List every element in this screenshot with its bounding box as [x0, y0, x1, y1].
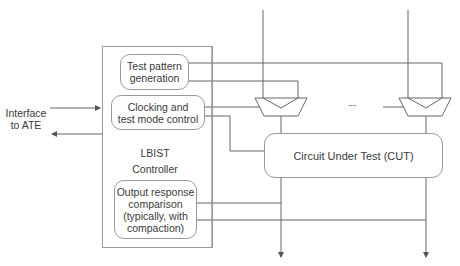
mux-1 — [255, 98, 307, 116]
interface-label-line1: Interface — [0, 107, 52, 119]
ora-line4: compaction) — [117, 222, 195, 234]
cut-label: Circuit Under Test (CUT) — [293, 150, 413, 162]
circuit-under-test-block: Circuit Under Test (CUT) — [264, 133, 443, 178]
controller-title-line2: Controller — [120, 161, 190, 177]
clocking-line2: test mode control — [118, 113, 199, 125]
tpg-line2: generation — [127, 72, 182, 84]
clocking-test-mode-block: Clocking and test mode control — [111, 95, 205, 130]
controller-title-line1: LBIST — [120, 145, 190, 161]
mux-2 — [399, 98, 451, 116]
interface-label-line2: to ATE — [0, 119, 52, 131]
tpg-line1: Test pattern — [127, 60, 182, 72]
test-pattern-generation-block: Test pattern generation — [120, 54, 189, 90]
interface-label: Interface to ATE — [0, 107, 52, 131]
output-response-comparison-block: Output response comparison (typically, w… — [114, 180, 197, 239]
controller-title: LBIST Controller — [120, 145, 190, 177]
clocking-line1: Clocking and — [118, 101, 199, 113]
mux-ellipsis: .... — [340, 97, 364, 109]
ora-line3: (typically, with — [117, 210, 195, 222]
ora-line2: comparison — [117, 198, 195, 210]
ora-line1: Output response — [117, 186, 195, 198]
